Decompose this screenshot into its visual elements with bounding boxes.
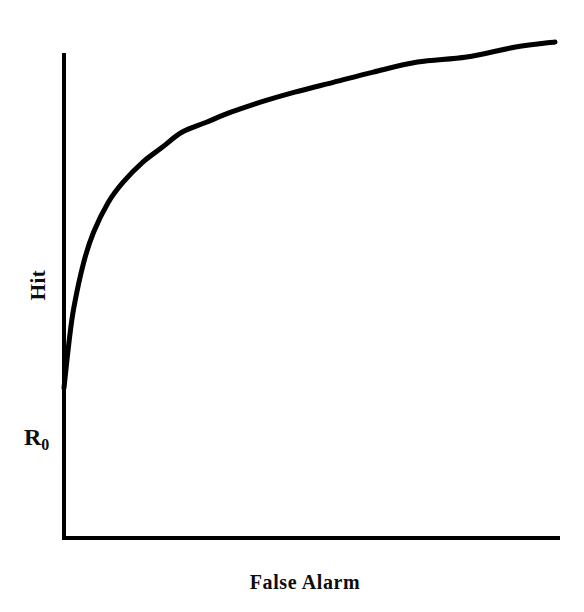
baseline-annotation-letter: R [24,424,41,450]
roc-curve-line [64,42,555,388]
baseline-annotation-subscript: 0 [41,436,49,453]
baseline-annotation-r0: R0 [24,425,49,453]
x-axis-label: False Alarm [250,572,360,592]
y-axis-label: Hit [28,270,49,301]
plot-canvas [0,0,584,612]
roc-curve-figure: Hit R0 False Alarm [0,0,584,612]
